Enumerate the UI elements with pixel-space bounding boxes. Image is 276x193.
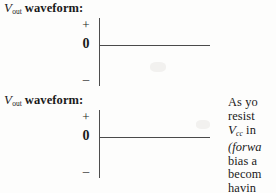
scan-artifact	[196, 120, 210, 129]
caption-subscript: out	[12, 99, 22, 108]
caption-variable: V	[4, 0, 12, 15]
body-text-line: Vcc in	[228, 123, 276, 141]
caption-word: waveform:	[25, 93, 84, 107]
scanned-page: Voutwaveform: + 0 – Voutwaveform: + 0 – …	[0, 0, 276, 193]
axis-label-negative-2: –	[75, 165, 97, 177]
axis-label-zero-1: 0	[75, 38, 97, 50]
waveform-caption-1: Voutwaveform:	[4, 1, 83, 19]
waveform-trace-1	[100, 45, 210, 46]
caption-subscript: out	[12, 7, 22, 16]
scan-artifact	[150, 62, 166, 72]
axis-label-zero-2: 0	[75, 130, 97, 142]
caption-variable: V	[4, 92, 12, 107]
inline-variable: V	[228, 122, 236, 137]
axis-label-negative-1: –	[75, 73, 97, 85]
waveform-caption-2: Voutwaveform:	[4, 93, 83, 111]
body-text-line: becom	[228, 168, 276, 182]
body-text-line: (forwa	[228, 141, 276, 155]
waveform-trace-2	[100, 137, 210, 138]
body-text-line: resist	[228, 110, 276, 124]
vertical-axis-2	[99, 110, 100, 178]
caption-word: waveform:	[25, 1, 84, 15]
inline-subscript: cc	[236, 130, 243, 139]
body-text-line: As yo	[228, 96, 276, 110]
body-text-column: As yo resist Vcc in (forwa bias a becom …	[228, 96, 276, 193]
vertical-axis-1	[99, 18, 100, 86]
inline-text: in	[243, 123, 256, 137]
axis-label-positive-2: +	[75, 111, 97, 123]
body-text-line: havin	[228, 182, 276, 193]
axis-label-positive-1: +	[75, 19, 97, 31]
body-text-line: bias a	[228, 155, 276, 169]
